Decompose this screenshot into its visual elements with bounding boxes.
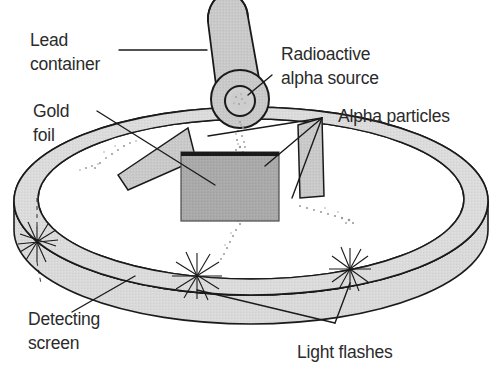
label-gold-foil-line2: foil bbox=[33, 125, 55, 145]
label-detecting-screen-line1: Detecting bbox=[28, 309, 100, 329]
label-radioactive-source-line2: alpha source bbox=[281, 68, 379, 88]
rutherford-scattering-figure: Lead container Radioactive alpha source … bbox=[0, 0, 501, 375]
label-gold-foil-line1: Gold bbox=[33, 101, 69, 121]
lead-container-cylinder bbox=[208, 0, 269, 128]
gold-foil-plate bbox=[181, 152, 279, 221]
label-detecting-screen-line2: screen bbox=[28, 333, 79, 353]
label-light-flashes: Light flashes bbox=[297, 342, 393, 362]
gold-foil bbox=[181, 152, 279, 221]
gold-foil-top-edge bbox=[181, 152, 279, 156]
diagram-canvas: Lead container Radioactive alpha source … bbox=[0, 0, 501, 375]
label-radioactive-source-line1: Radioactive bbox=[281, 44, 370, 64]
label-lead-container-line1: Lead bbox=[30, 30, 68, 50]
label-alpha-particles: Alpha particles bbox=[338, 106, 450, 126]
screen-end-right bbox=[298, 118, 324, 198]
label-lead-container-line2: container bbox=[30, 54, 101, 74]
alpha-source-core bbox=[230, 91, 250, 111]
